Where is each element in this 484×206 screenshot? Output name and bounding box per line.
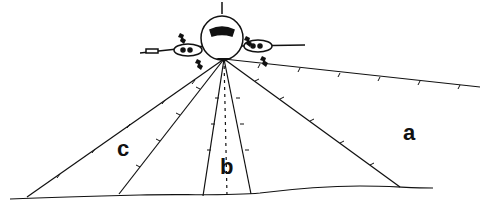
beam-c-inner (119, 59, 224, 194)
label-b: b (220, 156, 233, 178)
aircraft-icon (140, 2, 305, 60)
beam-c-outer (27, 59, 224, 197)
ground-line (10, 186, 433, 199)
label-a: a (403, 122, 415, 144)
beam-a-inner (224, 59, 400, 187)
beam-diagram (0, 0, 484, 206)
label-c: c (117, 138, 129, 160)
diagram-canvas: c b a (0, 0, 484, 206)
